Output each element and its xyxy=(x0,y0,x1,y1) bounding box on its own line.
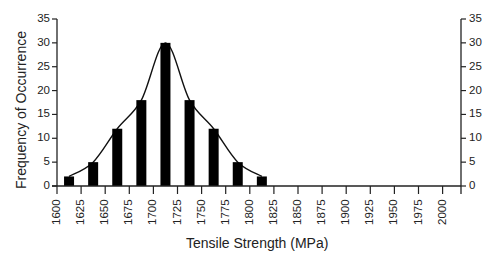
x-tick-label: 1625 xyxy=(75,199,87,225)
y-tick-label-left: 35 xyxy=(22,13,50,25)
y-axis-title: Frequency of Occurrence xyxy=(13,31,29,189)
x-tick-label: 1700 xyxy=(147,199,159,225)
histogram-bar xyxy=(64,176,74,186)
histogram-bar xyxy=(257,176,267,186)
y-tick-label-right: 20 xyxy=(469,85,493,97)
x-tick-label: 1750 xyxy=(196,199,208,225)
x-tick-label: 1975 xyxy=(413,199,425,225)
x-tick-label: 1850 xyxy=(292,199,304,225)
x-axis-title: Tensile Strength (MPa) xyxy=(186,235,328,251)
x-tick-label: 1650 xyxy=(99,199,111,225)
y-tick-label-right: 5 xyxy=(469,156,493,168)
x-tick-label: 1775 xyxy=(220,199,232,225)
y-tick-label-right: 0 xyxy=(469,180,493,192)
x-tick-label: 2000 xyxy=(437,199,449,225)
x-tick-label: 1725 xyxy=(172,199,184,225)
x-tick-label: 1825 xyxy=(268,199,280,225)
x-tick-label: 1900 xyxy=(340,199,352,225)
histogram-chart xyxy=(0,0,495,269)
x-tick-label: 1675 xyxy=(123,199,135,225)
x-tick-label: 1800 xyxy=(244,199,256,225)
y-tick-label-right: 30 xyxy=(469,37,493,49)
histogram-bar xyxy=(209,129,219,186)
x-tick-label: 1950 xyxy=(388,199,400,225)
histogram-bar xyxy=(136,100,146,186)
y-tick-label-right: 25 xyxy=(469,61,493,73)
x-tick-label: 1600 xyxy=(51,199,63,225)
histogram-bar xyxy=(88,162,98,186)
histogram-bar xyxy=(233,162,243,186)
y-tick-label-right: 35 xyxy=(469,13,493,25)
y-tick-label-right: 10 xyxy=(469,132,493,144)
y-tick-label-right: 15 xyxy=(469,108,493,120)
x-tick-label: 1925 xyxy=(364,199,376,225)
x-tick-label: 1875 xyxy=(316,199,328,225)
histogram-bar xyxy=(160,43,170,186)
histogram-bar xyxy=(185,100,195,186)
histogram-bar xyxy=(112,129,122,186)
